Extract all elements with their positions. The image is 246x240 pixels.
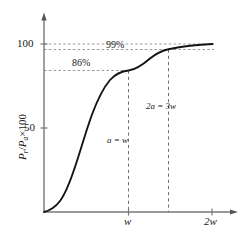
x-axis-arrowhead — [230, 209, 238, 214]
y-tick-label-100: 100 — [17, 38, 34, 49]
annotation-86-percent: 86% — [72, 58, 90, 68]
y-axis-arrowhead — [41, 13, 46, 21]
figure-container: Pr/Pa×100 100 50 w 2w 86% 99% a = w 2a =… — [0, 0, 246, 240]
y-tick-label-50: 50 — [24, 122, 35, 133]
x-tick-label-2w: 2w — [204, 216, 217, 227]
y-axis-label-denominator-sub: a — [21, 137, 30, 141]
plot-canvas — [0, 0, 246, 240]
y-axis-label-slash: / — [16, 147, 28, 150]
x-tick-label-w: w — [124, 216, 131, 227]
annotation-99-percent: 99% — [106, 40, 124, 50]
y-axis-label-numerator: P — [16, 153, 28, 160]
y-axis-label-numerator-sub: r — [21, 150, 30, 153]
annotation-2a-equals-3w: 2a = 3w — [146, 102, 176, 111]
y-axis-label-denominator: P — [16, 141, 28, 148]
annotation-a-equals-w: a = w — [107, 136, 128, 145]
